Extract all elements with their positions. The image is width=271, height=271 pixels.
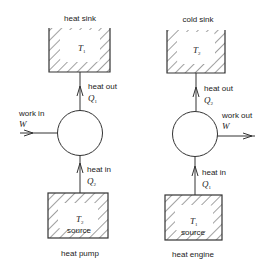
bottom-flow-quantity: Q2	[87, 176, 97, 187]
heat-pump-caption: heat pump	[61, 249, 99, 258]
bottom-reservoir-label: source	[67, 226, 92, 235]
bottom-flow-label: heat in	[202, 168, 226, 177]
top-flow-quantity: Q2	[204, 95, 214, 106]
top-reservoir-label: heat sink	[64, 14, 97, 23]
bottom-flow-quantity: Q1	[202, 179, 212, 190]
heat-pump-machine	[58, 111, 103, 156]
top-flow-label: heat out	[88, 82, 118, 91]
work-label: work in	[18, 109, 44, 118]
top-flow-quantity: Q1	[88, 93, 98, 104]
work-label: work out	[221, 111, 253, 120]
work-quantity: W	[222, 121, 231, 131]
top-reservoir-label: cold sink	[182, 15, 214, 24]
bottom-flow-label: heat in	[87, 165, 111, 174]
heat-engine-caption: heat engine	[172, 250, 214, 259]
heat-engine-diagram: cold sink T2 heat out Q2 work out W heat…	[165, 15, 255, 259]
heat-engine-machine	[173, 112, 218, 157]
heat-pump-diagram: heat sink T1 heat out Q1 work in W heat …	[18, 14, 118, 258]
bottom-reservoir-label: source	[181, 228, 206, 237]
top-flow-label: heat out	[204, 84, 234, 93]
work-quantity: W	[19, 119, 28, 129]
thermodynamic-cycles-diagram: heat sink T1 heat out Q1 work in W heat …	[0, 0, 271, 271]
